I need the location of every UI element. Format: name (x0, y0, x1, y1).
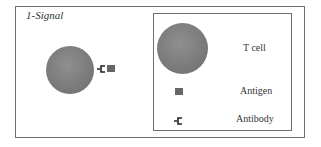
legend-label-antigen: Antigen (240, 85, 272, 96)
panel-title: 1-Signal (26, 9, 63, 21)
legend-t-cell-icon (157, 23, 208, 74)
legend-antigen-icon (175, 88, 183, 95)
t-cell-icon (46, 46, 94, 94)
antibody-icon (96, 64, 106, 74)
legend-label-t-cell: T cell (243, 42, 266, 53)
legend-antibody-icon (173, 116, 183, 126)
legend-label-antibody: Antibody (236, 113, 274, 124)
antigen-icon (107, 65, 115, 72)
